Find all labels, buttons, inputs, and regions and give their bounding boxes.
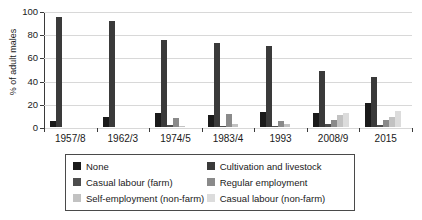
y-tick-mark [40,105,44,106]
y-tick-label: 20 [8,100,38,110]
x-tick-mark [44,128,45,132]
x-tick-label: 2008/9 [307,133,360,144]
bar-group [313,11,358,127]
bar-group [155,11,200,127]
bar [371,77,377,127]
bar [109,21,115,127]
legend-item-label: None [86,161,109,172]
bar-group [260,11,305,127]
y-tick-label: 80 [8,30,38,40]
x-tick-label: 1962/3 [97,133,150,144]
bar [319,71,325,127]
legend-item-label: Casual labour (non-farm) [220,193,326,204]
bar-group-bars [50,11,95,127]
x-tick-mark [359,128,360,132]
legend-item-label: Self-employment (non-farm) [86,193,204,204]
y-axis-line [44,12,45,129]
legend-item: Regular employment [207,177,348,188]
y-tick-label: 60 [8,53,38,63]
legend-item: Casual labour (non-farm) [207,193,348,204]
bar [266,46,272,127]
y-tick-label: 100 [8,7,38,17]
legend-item: Casual labour (farm) [73,177,207,188]
y-tick-mark [40,82,44,83]
bar [343,113,349,127]
bar [161,40,167,127]
legend-item: None [73,161,207,172]
bar-group [208,11,253,127]
legend-row: NoneCultivation and livestock [73,158,348,174]
chart-figure: % of adult males 020406080100 1957/81962… [0,0,422,220]
x-tick-label: 1993 [254,133,307,144]
bar [214,43,220,127]
legend-item: Self-employment (non-farm) [73,193,207,204]
gridline [44,128,412,129]
legend-item-label: Casual labour (farm) [86,177,173,188]
bar-group-bars [365,11,410,127]
legend-swatch-icon [73,194,81,202]
x-tick-label: 1974/5 [149,133,202,144]
legend-swatch-icon [207,194,215,202]
bar-group-bars [313,11,358,127]
bar-group-bars [208,11,253,127]
x-tick-label: 1957/8 [44,133,97,144]
legend-row: Casual labour (farm)Regular employment [73,174,348,190]
legend-item-label: Regular employment [220,177,308,188]
x-tick-mark [149,128,150,132]
bar [179,126,185,127]
x-tick-mark [202,128,203,132]
bar-group [50,11,95,127]
legend-swatch-icon [73,162,81,170]
chart-plot-region: % of adult males 020406080100 1957/81962… [0,0,422,150]
legend-item-label: Cultivation and livestock [220,161,322,172]
y-tick-mark [40,12,44,13]
x-tick-mark [412,128,413,132]
bar-group [365,11,410,127]
bar-group-bars [155,11,200,127]
x-tick-mark [254,128,255,132]
bar [284,124,290,127]
x-tick-label: 2015 [359,133,412,144]
y-tick-mark [40,35,44,36]
plot-area: 020406080100 1957/81962/31974/51983/4199… [44,12,412,128]
y-tick-mark [40,58,44,59]
bar-group [103,11,148,127]
bar [395,111,401,127]
bar [232,124,238,127]
bar-group-bars [103,11,148,127]
y-tick-label: 0 [8,123,38,133]
legend-swatch-icon [207,162,215,170]
legend-swatch-icon [73,178,81,186]
legend-swatch-icon [207,178,215,186]
x-tick-label: 1983/4 [202,133,255,144]
bar [56,17,62,127]
legend-row: Self-employment (non-farm)Casual labour … [73,190,348,206]
x-tick-mark [97,128,98,132]
x-tick-mark [307,128,308,132]
chart-legend: NoneCultivation and livestockCasual labo… [65,154,355,211]
bar-group-bars [260,11,305,127]
legend-item: Cultivation and livestock [207,161,348,172]
y-tick-label: 40 [8,77,38,87]
